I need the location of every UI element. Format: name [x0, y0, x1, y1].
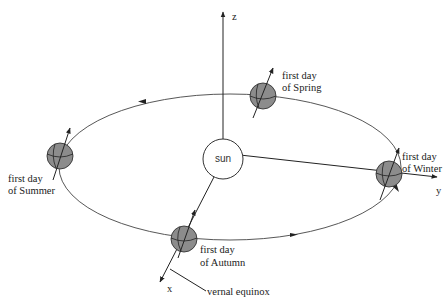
vernal-equinox-label: vernal equinox: [207, 286, 270, 297]
sun-label: sun: [215, 153, 231, 164]
planet-summer: [47, 128, 73, 180]
planet-winter: [376, 148, 402, 200]
autumn-label-line2: of Autumn: [200, 257, 246, 268]
vernal-equinox-pointer: [170, 269, 206, 291]
autumn-label-line1: first day: [200, 244, 235, 255]
winter-label-line1: first day: [402, 151, 437, 162]
orbit-arrow-top: [138, 99, 146, 104]
x-axis-label: x: [167, 283, 173, 294]
spring-label-line1: first day: [282, 70, 317, 81]
spring-label-line2: of Spring: [282, 82, 322, 93]
z-axis-label: z: [232, 11, 237, 22]
planet-spring: [250, 68, 276, 118]
summer-label-line2: of Summer: [8, 185, 55, 196]
y-axis-label: y: [436, 185, 442, 196]
summer-label-line1: first day: [8, 173, 43, 184]
earth-orbit-diagram: z y x vernal equinox sun first day of Sp…: [0, 0, 447, 304]
orbit-arrow-bottom: [290, 233, 298, 237]
winter-label-line2: of Winter: [402, 163, 442, 174]
